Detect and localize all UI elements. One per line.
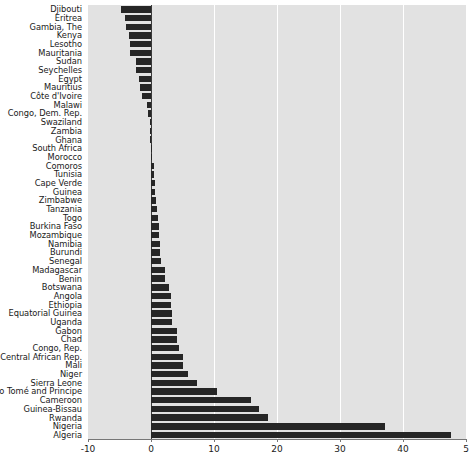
bar-row (88, 283, 466, 292)
bar-row (88, 231, 466, 240)
x-tick-label: 10 (208, 444, 219, 454)
bar (151, 362, 183, 368)
bar (151, 189, 155, 195)
category-label: Zambia (0, 127, 86, 136)
bar-row (88, 266, 466, 275)
bar-row (88, 205, 466, 214)
bar-row (88, 5, 466, 14)
x-axis: -100102030405 (88, 439, 466, 465)
x-tick-label: 40 (397, 444, 408, 454)
bar (151, 354, 183, 360)
x-tick-mark (466, 439, 467, 442)
bar-row (88, 92, 466, 101)
bar (139, 76, 151, 82)
bar (151, 275, 165, 281)
bar (150, 136, 151, 142)
bar (121, 6, 151, 12)
bar-row (88, 387, 466, 396)
bar-row (88, 274, 466, 283)
bar (150, 119, 151, 125)
bar (151, 215, 158, 221)
bar (151, 406, 259, 412)
bar-row (88, 405, 466, 414)
bar-row (88, 48, 466, 57)
bar-row (88, 318, 466, 327)
bar (125, 15, 151, 21)
bar-row (88, 187, 466, 196)
bar-row (88, 109, 466, 118)
bar (151, 328, 177, 334)
bar (129, 32, 151, 38)
bar-row (88, 240, 466, 249)
category-label: Madagascar (0, 266, 86, 275)
bar-row (88, 413, 466, 422)
bar-row (88, 144, 466, 153)
bar (151, 302, 171, 308)
bar-row (88, 83, 466, 92)
bar-row (88, 179, 466, 188)
bar-row (88, 170, 466, 179)
bar (151, 284, 169, 290)
bar-row (88, 66, 466, 75)
bar-row (88, 300, 466, 309)
bar (130, 41, 151, 47)
bar (151, 267, 165, 273)
x-tick-label: 30 (334, 444, 345, 454)
bar (151, 345, 179, 351)
bar-row (88, 57, 466, 66)
bar-row (88, 257, 466, 266)
bar-row (88, 101, 466, 110)
bar-row (88, 309, 466, 318)
category-axis-labels: DjiboutiEritreaGambia, TheKenyaLesothoMa… (0, 5, 86, 439)
bar-row (88, 127, 466, 136)
bar-row (88, 361, 466, 370)
bar-row (88, 292, 466, 301)
bar-row (88, 335, 466, 344)
bar (136, 58, 151, 64)
bar (151, 171, 154, 177)
bar (151, 232, 159, 238)
bar (151, 414, 268, 420)
bar-row (88, 431, 466, 439)
x-tick-mark (403, 439, 404, 442)
bar (151, 432, 451, 438)
bar (151, 197, 156, 203)
bar-row (88, 222, 466, 231)
bar-row (88, 326, 466, 335)
bar-row (88, 153, 466, 162)
bar-row (88, 422, 466, 431)
x-tick-label: -10 (81, 444, 96, 454)
x-tick-mark (214, 439, 215, 442)
bar-row (88, 14, 466, 23)
x-tick-label: 5 (463, 444, 469, 454)
bar (151, 180, 155, 186)
bar-row (88, 396, 466, 405)
bar-row (88, 370, 466, 379)
bar-row (88, 344, 466, 353)
category-label: Guinea-Bissau (0, 405, 86, 414)
bar (151, 310, 172, 316)
horizontal-bar-chart: DjiboutiEritreaGambia, TheKenyaLesothoMa… (0, 0, 470, 470)
bar (126, 24, 151, 30)
bar (151, 258, 161, 264)
bar-row (88, 22, 466, 31)
bar-row (88, 379, 466, 388)
bar (151, 293, 171, 299)
bar (151, 145, 152, 151)
bar (130, 50, 151, 56)
bar-row (88, 196, 466, 205)
bar (151, 336, 177, 342)
bar-row (88, 248, 466, 257)
bar (151, 154, 152, 160)
bar (142, 93, 151, 99)
bar-row (88, 40, 466, 49)
bar (151, 319, 172, 325)
bar-row (88, 214, 466, 223)
x-tick-label: 0 (148, 444, 154, 454)
bar-row (88, 118, 466, 127)
bar (136, 67, 151, 73)
x-tick-label: 20 (271, 444, 282, 454)
bar (147, 102, 151, 108)
bar (151, 380, 197, 386)
bar (151, 388, 217, 394)
